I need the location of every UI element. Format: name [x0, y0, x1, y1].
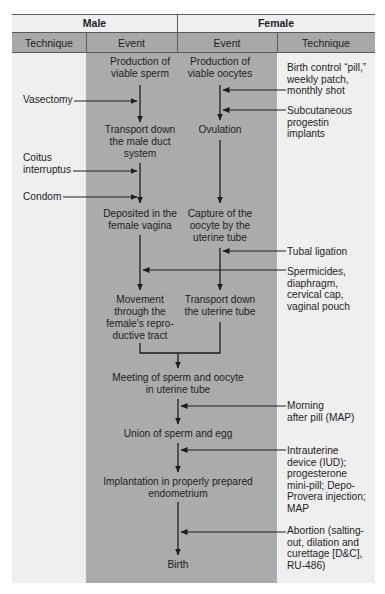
merge-bracket: [140, 322, 220, 353]
flow-arrows: [0, 0, 385, 594]
